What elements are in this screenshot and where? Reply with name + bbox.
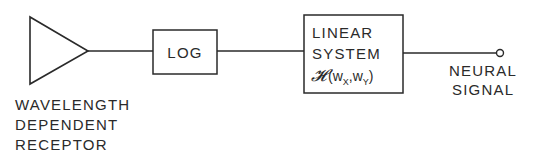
log-block-label: LOG (167, 44, 202, 61)
linear-system-label-line2: SYSTEM (312, 45, 381, 62)
receptor-label-line2: DEPENDENT (15, 116, 118, 133)
output-label-line2: SIGNAL (452, 81, 514, 98)
transfer-function-close: ) (369, 68, 374, 84)
block-diagram: LOG LINEAR SYSTEM 𝓗(wX,wY) NEURAL SIGNAL… (0, 0, 543, 161)
receptor-label-line3: RECEPTOR (15, 136, 108, 153)
transfer-function-open: (w (328, 68, 344, 84)
linear-system-label-line1: LINEAR (312, 24, 373, 41)
transfer-function-comma: ,w (349, 68, 364, 84)
receptor-label-line1: WAVELENGTH (15, 96, 130, 113)
output-label-line1: NEURAL (449, 62, 517, 79)
receptor-triangle (30, 17, 88, 84)
output-terminal-icon (497, 50, 504, 57)
transfer-function: 𝓗(wX,wY) (311, 65, 373, 87)
